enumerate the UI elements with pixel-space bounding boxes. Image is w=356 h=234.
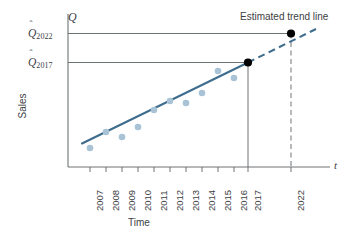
x-tick-label-2013: 2013	[191, 190, 201, 211]
data-point-2008	[103, 129, 110, 136]
qhat-2017-symbol: Q	[28, 56, 36, 68]
y-axis-symbol-label: Q	[68, 11, 77, 23]
data-point-2012	[167, 98, 174, 105]
y-tick-label-qhat-2017: Q2017	[28, 57, 53, 70]
x-tick-label-2014: 2014	[207, 190, 217, 211]
x-tick-label-2012: 2012	[175, 190, 185, 211]
data-point-2010	[135, 124, 142, 131]
y-tick-label-qhat-2022: Q2022	[28, 28, 53, 41]
x-tick-label-2009: 2009	[127, 190, 137, 211]
y-axis-title: Sales	[18, 76, 28, 136]
x-axis-symbol-label: t	[334, 160, 337, 171]
trend-line-dashed-forecast	[248, 29, 316, 63]
x-axis-title: Time	[128, 218, 150, 228]
x-tick-label-2007: 2007	[95, 190, 105, 211]
data-point-2007	[87, 145, 94, 152]
x-tick-label-2015: 2015	[223, 190, 233, 211]
forecast-marker-2022	[287, 29, 295, 37]
x-tick-label-2016: 2016	[239, 190, 249, 211]
data-point-2014	[199, 90, 206, 97]
trend-line-annotation: Estimated trend line	[240, 12, 328, 22]
qhat-2017-subscript: 2017	[36, 61, 52, 70]
data-point-2011	[151, 107, 158, 114]
x-axis-ticks	[90, 167, 291, 172]
x-tick-label-2017: 2017	[253, 190, 263, 211]
data-point-2015	[215, 68, 222, 75]
scatter-points	[87, 68, 238, 152]
x-tick-label-2008: 2008	[111, 190, 121, 211]
qhat-2022-subscript: 2022	[36, 32, 52, 41]
x-tick-label-2022: 2022	[296, 190, 306, 211]
x-tick-label-2011: 2011	[159, 191, 169, 211]
data-point-2009	[119, 134, 126, 141]
chart-figure: Q t Q2022 Q2017 Sales Time Estimated tre…	[0, 0, 356, 234]
qhat-2022-symbol: Q	[28, 27, 36, 39]
forecast-marker-2017	[244, 58, 252, 66]
data-point-2013	[183, 100, 190, 107]
x-tick-label-2010: 2010	[143, 190, 153, 211]
data-point-2016	[231, 75, 238, 82]
